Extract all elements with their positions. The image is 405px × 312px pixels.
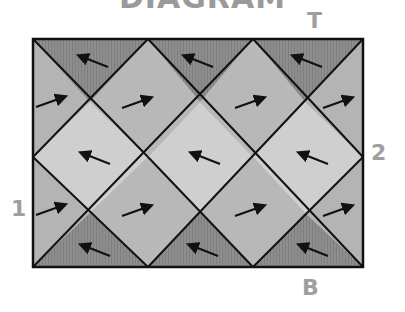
diamond-lattice-diagram xyxy=(0,0,405,312)
